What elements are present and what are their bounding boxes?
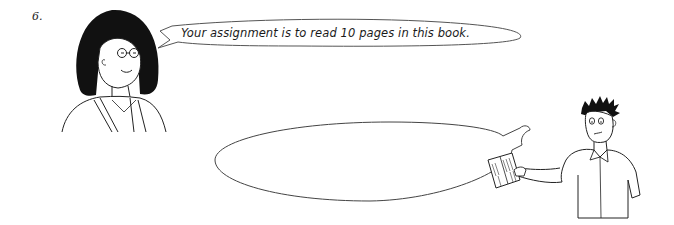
teacher-character (62, 10, 166, 132)
teacher-speech-text: Your assignment is to read 10 pages in t… (181, 26, 470, 40)
student-answer-area[interactable] (222, 128, 522, 190)
